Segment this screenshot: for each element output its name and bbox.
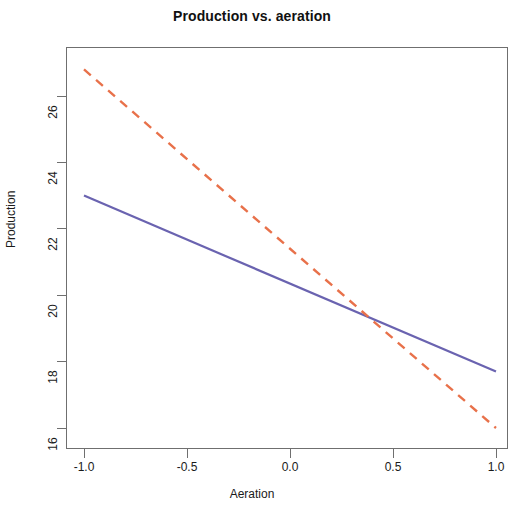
xtick-mark-neg1 xyxy=(84,449,85,458)
page-title: Production vs. aeration xyxy=(0,8,504,24)
xtick-mark-0-5 xyxy=(393,449,394,458)
xtick-label-neg0-5: -0.5 xyxy=(165,460,209,474)
x-axis-title: Aeration xyxy=(0,487,504,501)
ytick-label-24: 24 xyxy=(46,163,60,193)
plot-frame xyxy=(66,47,508,449)
xtick-mark-0 xyxy=(290,449,291,458)
xtick-label-0-5: 0.5 xyxy=(371,460,415,474)
xtick-label-1: 1.0 xyxy=(474,460,512,474)
xtick-mark-1 xyxy=(496,449,497,458)
xtick-label-0: 0.0 xyxy=(268,460,312,474)
ytick-label-26: 26 xyxy=(46,97,60,127)
ytick-label-20: 20 xyxy=(46,296,60,326)
xtick-mark-neg0-5 xyxy=(187,449,188,458)
ytick-label-16: 16 xyxy=(46,429,60,459)
xtick-label-neg1: -1.0 xyxy=(62,460,106,474)
y-axis-title: Production xyxy=(4,191,18,248)
ytick-label-18: 18 xyxy=(46,362,60,392)
ytick-label-22: 22 xyxy=(46,229,60,259)
